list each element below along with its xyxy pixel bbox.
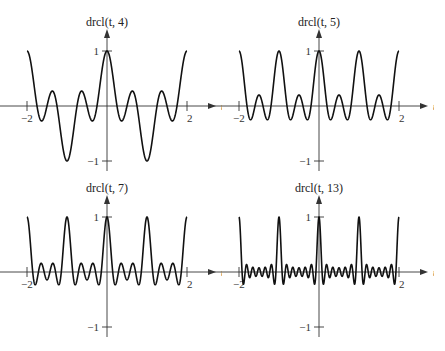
y-axis-arrow-icon <box>104 29 110 38</box>
panel-drcl-13: drcl(t, 13) t−221−1 <box>212 166 434 341</box>
x-tick-label: 2 <box>399 112 405 124</box>
x-axis-label: t <box>433 100 434 112</box>
x-tick-label: 2 <box>399 278 405 290</box>
panel-drcl-5: drcl(t, 5) t−221−1 <box>212 0 434 175</box>
x-axis-arrow-icon <box>420 103 428 109</box>
y-axis-arrow-icon <box>316 29 322 38</box>
x-tick-label: 2 <box>187 112 193 124</box>
y-tick-label: −1 <box>87 321 99 333</box>
plot-title: drcl(t, 7) <box>86 181 128 195</box>
y-tick-label: 1 <box>94 45 100 57</box>
panel-drcl-4: drcl(t, 4) t−221−1 <box>0 0 222 175</box>
y-tick-label: −1 <box>299 321 311 333</box>
x-tick-label: −2 <box>21 278 33 290</box>
x-tick-label: −2 <box>21 112 33 124</box>
x-tick-label: 2 <box>187 278 193 290</box>
plot-drcl-4: drcl(t, 4) t−221−1 <box>0 0 222 175</box>
y-axis-arrow-icon <box>316 195 322 204</box>
y-axis-arrow-icon <box>104 195 110 204</box>
panel-drcl-7: drcl(t, 7) t−221−1 <box>0 166 222 341</box>
x-axis-label: t <box>433 266 434 278</box>
plot-title: drcl(t, 4) <box>86 15 128 29</box>
plot-drcl-5: drcl(t, 5) t−221−1 <box>212 0 434 175</box>
plot-title: drcl(t, 13) <box>295 181 343 195</box>
y-tick-label: 1 <box>94 211 100 223</box>
y-tick-label: 1 <box>306 45 312 57</box>
plot-title: drcl(t, 5) <box>298 15 340 29</box>
plot-drcl-13: drcl(t, 13) t−221−1 <box>212 166 434 341</box>
figure: drcl(t, 4) t−221−1 drcl(t, 5) t−221−1 dr… <box>0 0 445 351</box>
y-tick-label: 1 <box>306 211 312 223</box>
x-tick-label: −2 <box>233 112 245 124</box>
x-axis-arrow-icon <box>420 269 428 275</box>
plot-drcl-7: drcl(t, 7) t−221−1 <box>0 166 222 341</box>
